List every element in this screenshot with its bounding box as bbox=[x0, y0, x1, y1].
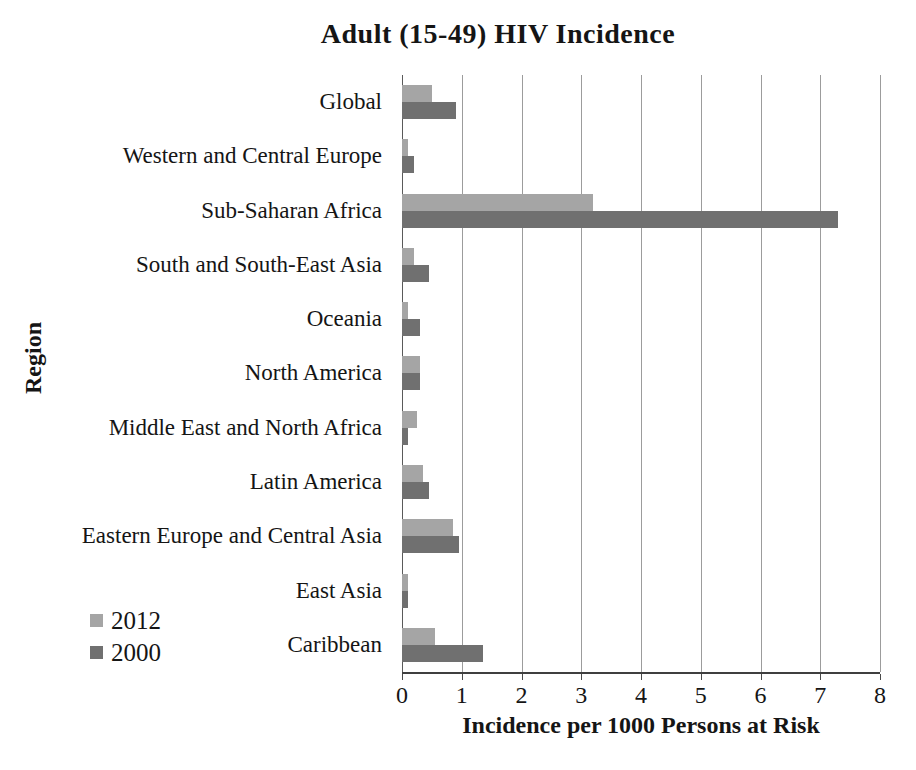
x-tick-label: 6 bbox=[755, 682, 767, 709]
x-tick-mark bbox=[701, 674, 702, 680]
bar-group bbox=[402, 346, 880, 400]
category-label: Middle East and North Africa bbox=[0, 401, 392, 455]
bar-group bbox=[402, 618, 880, 672]
category-label: South and South-East Asia bbox=[0, 238, 392, 292]
legend-label: 2012 bbox=[111, 607, 161, 635]
bar-2000 bbox=[402, 591, 408, 608]
bar-group bbox=[402, 238, 880, 292]
bar-2000 bbox=[402, 482, 429, 499]
x-tick-mark bbox=[761, 674, 762, 680]
x-tick-labels: 012345678 bbox=[402, 682, 880, 710]
bar-2000 bbox=[402, 536, 459, 553]
bar-2012 bbox=[402, 465, 423, 482]
x-tick-mark bbox=[462, 674, 463, 680]
bar-2000 bbox=[402, 156, 414, 173]
category-label: Latin America bbox=[0, 455, 392, 509]
category-label: Sub-Saharan Africa bbox=[0, 184, 392, 238]
bar-group bbox=[402, 129, 880, 183]
x-tick-mark bbox=[402, 674, 403, 680]
bar-2012 bbox=[402, 248, 414, 265]
bar-2012 bbox=[402, 411, 417, 428]
bar-2012 bbox=[402, 85, 432, 102]
x-tick-label: 0 bbox=[396, 682, 408, 709]
bar-2000 bbox=[402, 319, 420, 336]
bar-2000 bbox=[402, 102, 456, 119]
x-tick-label: 4 bbox=[635, 682, 647, 709]
x-tick-label: 5 bbox=[695, 682, 707, 709]
x-tick-mark bbox=[820, 674, 821, 680]
x-axis-title: Incidence per 1000 Persons at Risk bbox=[402, 712, 880, 739]
figure: Adult (15-49) HIV Incidence Region Globa… bbox=[0, 0, 916, 770]
x-tick-mark bbox=[880, 674, 881, 680]
legend-item-2000: 2000 bbox=[90, 639, 161, 666]
category-label: Caribbean bbox=[0, 618, 392, 672]
bar-2012 bbox=[402, 628, 435, 645]
bar-2012 bbox=[402, 194, 593, 211]
bar-2000 bbox=[402, 211, 838, 228]
bar-2000 bbox=[402, 265, 429, 282]
category-label: East Asia bbox=[0, 563, 392, 617]
bar-2000 bbox=[402, 428, 408, 445]
category-label: Oceania bbox=[0, 292, 392, 346]
x-tick-label: 8 bbox=[874, 682, 886, 709]
bar-group bbox=[402, 563, 880, 617]
legend-swatch bbox=[90, 614, 103, 627]
bar-group bbox=[402, 184, 880, 238]
x-tick-mark bbox=[641, 674, 642, 680]
x-tick-mark bbox=[522, 674, 523, 680]
x-tick-label: 7 bbox=[814, 682, 826, 709]
x-tick-label: 3 bbox=[575, 682, 587, 709]
bar-2000 bbox=[402, 645, 483, 662]
category-label: Global bbox=[0, 75, 392, 129]
bar-2012 bbox=[402, 574, 408, 591]
plot-area bbox=[402, 75, 880, 674]
legend: 20122000 bbox=[90, 607, 161, 671]
bar-2012 bbox=[402, 519, 453, 536]
x-tick-mark bbox=[581, 674, 582, 680]
bar-2012 bbox=[402, 356, 420, 373]
legend-label: 2000 bbox=[111, 639, 161, 667]
bar-group bbox=[402, 292, 880, 346]
gridline bbox=[880, 75, 881, 672]
bars-layer bbox=[402, 75, 880, 672]
x-tick-label: 2 bbox=[516, 682, 528, 709]
x-tick-label: 1 bbox=[456, 682, 468, 709]
bar-group bbox=[402, 455, 880, 509]
bar-group bbox=[402, 509, 880, 563]
category-label: North America bbox=[0, 346, 392, 400]
bar-2012 bbox=[402, 302, 408, 319]
bar-group bbox=[402, 75, 880, 129]
bar-2000 bbox=[402, 373, 420, 390]
chart-title: Adult (15-49) HIV Incidence bbox=[80, 18, 916, 50]
legend-swatch bbox=[90, 646, 103, 659]
category-label: Western and Central Europe bbox=[0, 129, 392, 183]
category-label: Eastern Europe and Central Asia bbox=[0, 509, 392, 563]
x-tick-marks bbox=[402, 674, 880, 682]
bar-2012 bbox=[402, 139, 408, 156]
bar-group bbox=[402, 401, 880, 455]
category-labels: GlobalWestern and Central EuropeSub-Saha… bbox=[0, 75, 392, 672]
legend-item-2012: 2012 bbox=[90, 607, 161, 634]
